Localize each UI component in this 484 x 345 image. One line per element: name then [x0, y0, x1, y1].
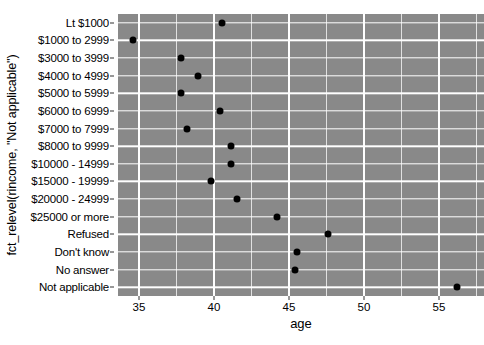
y-axis-title: fct_relevel(rincome, "Not applicable"): [0, 0, 22, 310]
x-axis-tick-label: 40: [208, 301, 221, 313]
y-axis-tick-label: Refused: [68, 228, 109, 240]
y-axis-tick-mark: [110, 40, 114, 41]
data-point: [184, 125, 191, 132]
data-point: [178, 90, 185, 97]
data-point: [227, 143, 234, 150]
data-point: [217, 107, 224, 114]
y-axis-tick-mark: [110, 251, 114, 252]
y-axis-tick-mark: [110, 110, 114, 111]
x-axis-tick-label: 50: [358, 301, 371, 313]
y-axis-tick-mark: [110, 163, 114, 164]
x-axis-tick-label: 35: [133, 301, 146, 313]
y-axis-tick-mark: [110, 181, 114, 182]
y-axis-tick-mark: [110, 234, 114, 235]
y-axis-tick-label: No answer: [56, 264, 109, 276]
data-point: [454, 284, 461, 291]
gridline-major-horizontal: [118, 57, 484, 58]
gridline-major-horizontal: [118, 163, 484, 164]
gridline-minor-vertical: [251, 14, 252, 296]
y-axis-tick-mark: [110, 146, 114, 147]
x-axis-tick-label: 55: [433, 301, 446, 313]
x-axis-tick-mark: [214, 296, 215, 300]
y-axis-tick-label: $5000 to 5999: [38, 87, 109, 99]
x-axis-tick-mark: [289, 296, 290, 300]
gridline-minor-vertical: [476, 14, 477, 296]
y-axis-tick-mark: [110, 128, 114, 129]
gridline-major-vertical: [363, 14, 365, 296]
y-axis-tick-label: Lt $1000: [66, 17, 109, 29]
gridline-minor-vertical: [326, 14, 327, 296]
data-point: [218, 19, 225, 26]
gridline-major-horizontal: [118, 128, 484, 129]
gridline-major-horizontal: [118, 22, 484, 23]
y-axis-tick-label: $15000 - 19999: [31, 175, 109, 187]
gridline-major-horizontal: [118, 251, 484, 252]
data-point: [325, 231, 332, 238]
data-point: [292, 266, 299, 273]
y-axis-tick-label: $25000 or more: [31, 211, 109, 223]
gridline-major-vertical: [138, 14, 140, 296]
data-point: [233, 196, 240, 203]
y-axis-title-label: fct_relevel(rincome, "Not applicable"): [4, 55, 18, 256]
y-axis-tick-mark: [110, 287, 114, 288]
x-axis-tick-mark: [139, 296, 140, 300]
gridline-major-horizontal: [118, 93, 484, 94]
y-axis-tick-label: Don't know: [54, 246, 109, 258]
data-point: [274, 213, 281, 220]
gridline-major-vertical: [438, 14, 440, 296]
y-axis-tick-labels: Lt $1000$1000 to 2999$3000 to 3999$4000 …: [22, 14, 114, 296]
y-axis-tick-label: $4000 to 4999: [38, 70, 109, 82]
y-axis-tick-label: Not applicable: [39, 281, 109, 293]
gridline-major-horizontal: [118, 75, 484, 76]
x-axis-tick-mark: [439, 296, 440, 300]
x-axis-tick-mark: [364, 296, 365, 300]
y-axis-tick-label: $10000 - 14999: [31, 158, 109, 170]
y-axis-tick-mark: [110, 58, 114, 59]
gridline-major-horizontal: [118, 216, 484, 217]
data-point: [194, 72, 201, 79]
y-axis-tick-label: $3000 to 3999: [38, 52, 109, 64]
x-axis-tick-label: 45: [283, 301, 296, 313]
gridline-major-horizontal: [118, 198, 484, 199]
data-point: [208, 178, 215, 185]
data-point: [227, 160, 234, 167]
gridline-major-horizontal: [118, 234, 484, 235]
gridline-major-vertical: [213, 14, 215, 296]
gridline-major-horizontal: [118, 40, 484, 41]
y-axis-tick-label: $8000 to 9999: [38, 140, 109, 152]
y-axis-tick-mark: [110, 22, 114, 23]
gridline-major-horizontal: [118, 181, 484, 182]
y-axis-tick-label: $7000 to 7999: [38, 123, 109, 135]
gridline-major-vertical: [288, 14, 290, 296]
gridline-major-horizontal: [118, 286, 484, 287]
gridline-major-horizontal: [118, 145, 484, 146]
y-axis-tick-mark: [110, 75, 114, 76]
y-axis-tick-mark: [110, 216, 114, 217]
gridline-minor-vertical: [401, 14, 402, 296]
data-point: [130, 37, 137, 44]
data-point: [293, 248, 300, 255]
x-axis-ticks: 3540455055: [118, 296, 484, 318]
data-point: [178, 55, 185, 62]
plot-panel: [118, 14, 484, 296]
gridline-major-horizontal: [118, 269, 484, 270]
y-axis-tick-label: $20000 - 24999: [31, 193, 109, 205]
y-axis-tick-label: $6000 to 6999: [38, 105, 109, 117]
y-axis-tick-label: $1000 to 2999: [38, 34, 109, 46]
gridline-major-horizontal: [118, 110, 484, 111]
y-axis-tick-mark: [110, 199, 114, 200]
y-axis-tick-mark: [110, 269, 114, 270]
y-axis-tick-mark: [110, 93, 114, 94]
x-axis-title: age: [118, 316, 484, 331]
scatter-plot-figure: fct_relevel(rincome, "Not applicable") L…: [0, 0, 484, 345]
